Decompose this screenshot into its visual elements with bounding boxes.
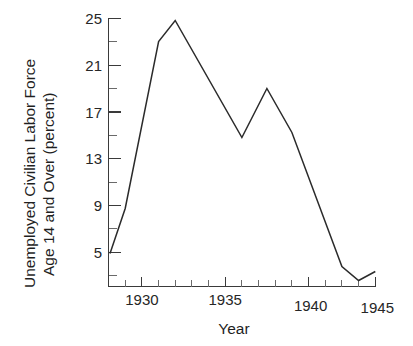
y-tick-label: 17: [85, 104, 102, 121]
y-axis-tick-labels: 25 21 17 13 9 5: [85, 10, 102, 261]
series-unemployment-rate: [110, 21, 375, 281]
y-tick-label: 25: [85, 10, 102, 27]
x-tick-label: 1935: [209, 291, 242, 308]
y-tick-label: 9: [94, 197, 102, 214]
chart-plot-area: Unemployed Civilian Labor Force Age 14 a…: [0, 0, 413, 346]
y-tick-label: 13: [85, 150, 102, 167]
y-tick-label: 5: [94, 244, 102, 261]
x-tick-label: 1945: [361, 299, 394, 316]
x-axis-title: Year: [218, 320, 249, 337]
chart-figure: Unemployed Civilian Labor Force Age 14 a…: [0, 0, 413, 346]
y-tick-label: 21: [85, 57, 102, 74]
x-axis-tick-labels: 1930 1935 1940 1945: [125, 291, 394, 316]
x-tick-label: 1940: [294, 297, 327, 314]
x-axis-minor-ticks: [125, 280, 358, 287]
y-axis-label-line1: Unemployed Civilian Labor Force: [21, 59, 38, 288]
y-axis-label-line2: Age 14 and Over (percent): [40, 92, 57, 276]
x-tick-label: 1930: [125, 291, 158, 308]
